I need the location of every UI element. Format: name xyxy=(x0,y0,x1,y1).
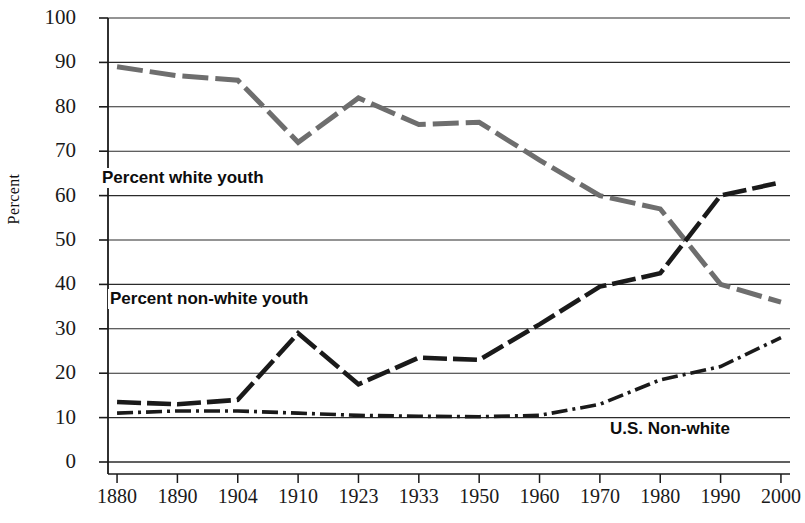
series-label-1: Percent non-white youth xyxy=(108,289,310,309)
series-label-2: U.S. Non-white xyxy=(608,419,732,439)
series-label-0: Percent white youth xyxy=(100,168,266,188)
series-line-2 xyxy=(117,338,781,417)
